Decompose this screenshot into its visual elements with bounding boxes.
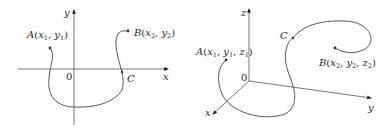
- point-b-label-3d: B(x2, y2, z2): [318, 57, 376, 70]
- z-axis-label-3d: z: [240, 7, 247, 18]
- point-c-label-3d: C: [280, 30, 288, 41]
- origin-label: 0: [66, 71, 72, 82]
- origin-label-3d: 0: [241, 72, 247, 83]
- y-axis-label-3d: y: [367, 102, 374, 113]
- point-b-dot-3d: [334, 47, 337, 50]
- x-axis-label-3d: x: [205, 107, 211, 118]
- curve-c-3d: [219, 21, 372, 117]
- point-b-dot: [127, 30, 130, 33]
- point-a-dot-3d: [225, 59, 228, 62]
- diagram-canvas: y x 0 A(x1, y1) B(x2, y2) C z y x 0 A(x1…: [0, 0, 391, 129]
- point-a-dot: [49, 47, 52, 50]
- y-axis-3d: [249, 81, 371, 98]
- point-c-dot: [121, 71, 123, 73]
- figure-3d: z y x 0 A(x1, y1, z1) C B(x2, y2, z2): [195, 7, 376, 118]
- x-axis-3d: [213, 81, 249, 114]
- point-a-label: A(x1, y1): [26, 29, 68, 42]
- x-axis-label: x: [163, 71, 169, 82]
- point-b-label: B(x2, y2): [133, 27, 175, 40]
- point-c-dot-3d: [292, 37, 295, 40]
- y-axis-label: y: [63, 7, 70, 18]
- figure-2d: y x 0 A(x1, y1) B(x2, y2) C: [18, 7, 175, 125]
- point-a-label-3d: A(x1, y1, z1): [195, 46, 253, 59]
- point-c-label: C: [127, 73, 135, 84]
